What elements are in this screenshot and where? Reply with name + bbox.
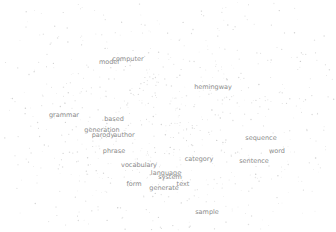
data-point: [189, 226, 190, 227]
data-point: [179, 149, 180, 150]
data-point: [14, 101, 15, 102]
data-point: [52, 103, 53, 104]
data-point: [293, 117, 294, 118]
data-point: [84, 220, 85, 221]
data-point: [201, 77, 202, 78]
data-point: [231, 155, 232, 156]
data-point: [208, 93, 209, 94]
data-point: [108, 163, 109, 164]
data-point: [167, 32, 168, 33]
data-point: [310, 78, 311, 79]
data-point: [143, 196, 144, 197]
data-point: [185, 105, 186, 106]
data-point: [115, 32, 116, 33]
data-point: [255, 166, 256, 167]
data-point: [134, 95, 135, 96]
data-point: [114, 78, 115, 79]
data-point: [131, 31, 132, 32]
data-point: [248, 4, 249, 5]
data-point: [159, 166, 160, 167]
data-point: [142, 32, 143, 33]
data-point: [159, 24, 160, 25]
data-point: [222, 112, 223, 113]
word-label: sample: [195, 209, 219, 216]
data-point: [148, 52, 150, 54]
data-point: [186, 128, 187, 129]
data-point: [40, 167, 41, 168]
data-point: [222, 103, 223, 104]
data-point: [222, 99, 224, 101]
data-point: [92, 146, 93, 147]
data-point: [99, 86, 100, 87]
data-point: [33, 166, 34, 167]
data-point: [106, 41, 107, 42]
data-point: [233, 29, 234, 30]
data-point: [38, 128, 39, 129]
data-point: [231, 96, 232, 97]
data-point: [44, 144, 45, 145]
data-point: [107, 48, 108, 49]
data-point: [255, 174, 256, 175]
data-point: [219, 47, 220, 48]
data-point: [323, 130, 324, 131]
data-point: [298, 181, 299, 182]
data-point: [221, 151, 222, 152]
data-point: [208, 132, 209, 133]
data-point: [144, 24, 145, 25]
data-point: [300, 108, 301, 109]
data-point: [125, 170, 126, 171]
data-point: [216, 64, 217, 65]
data-point: [186, 130, 187, 131]
data-point: [98, 145, 99, 146]
data-point: [268, 109, 269, 110]
data-point: [56, 215, 57, 216]
data-point: [224, 49, 225, 50]
data-point: [318, 164, 319, 165]
data-point: [270, 77, 271, 78]
data-point: [103, 14, 104, 15]
data-point: [42, 94, 43, 95]
data-point: [115, 141, 116, 142]
data-point: [140, 120, 141, 121]
data-point: [65, 224, 66, 225]
data-point: [147, 73, 148, 74]
data-point: [92, 140, 93, 141]
data-point: [35, 203, 36, 204]
data-point: [156, 81, 157, 82]
data-point: [85, 201, 86, 202]
data-point: [186, 95, 187, 96]
data-point: [223, 196, 224, 197]
data-point: [255, 177, 256, 178]
data-point: [179, 125, 180, 126]
data-point: [97, 206, 98, 207]
data-point: [76, 161, 77, 162]
data-point: [154, 92, 155, 93]
data-point: [213, 188, 214, 189]
data-point: [149, 69, 150, 70]
data-point: [53, 67, 54, 68]
data-point: [68, 134, 69, 135]
data-point: [144, 77, 145, 78]
data-point: [88, 223, 89, 224]
data-point: [169, 153, 170, 154]
data-point: [82, 7, 83, 8]
data-point: [294, 152, 295, 153]
data-point: [309, 162, 310, 163]
data-point: [122, 217, 123, 218]
data-point: [77, 216, 78, 217]
data-point: [121, 22, 122, 23]
data-point: [191, 33, 192, 34]
data-point: [214, 165, 215, 166]
data-point: [244, 16, 245, 17]
word-label: phrase: [103, 148, 125, 155]
data-point: [54, 26, 56, 28]
data-point: [178, 132, 179, 133]
data-point: [215, 61, 216, 62]
data-point: [181, 69, 182, 70]
data-point: [290, 139, 291, 140]
data-point: [143, 90, 144, 91]
data-point: [206, 40, 207, 41]
data-point: [325, 149, 326, 150]
word-label: hemingway: [194, 84, 232, 91]
data-point: [191, 144, 192, 145]
